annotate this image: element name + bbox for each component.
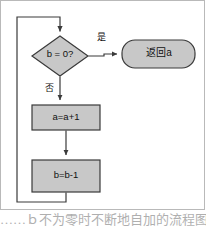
process1-label: a=a+1	[32, 112, 100, 122]
process2-label: b=b-1	[32, 170, 100, 180]
figure-caption: ……ｂ不为零时不断地自加的流程图	[0, 212, 206, 227]
screenshot-root: b = 0? 返回a a=a+1 b=b-1 是 否 ……ｂ不为零时不断地自加的…	[0, 0, 206, 227]
connector-yes	[89, 54, 118, 56]
edge-label-no: 否	[45, 84, 54, 93]
edge-label-yes: 是	[97, 33, 106, 42]
decision-diamond-label: b = 0?	[32, 49, 88, 59]
figure-caption-clip: ……ｂ不为零时不断地自加的流程图	[0, 212, 206, 227]
terminator-label: 返回a	[122, 48, 196, 58]
